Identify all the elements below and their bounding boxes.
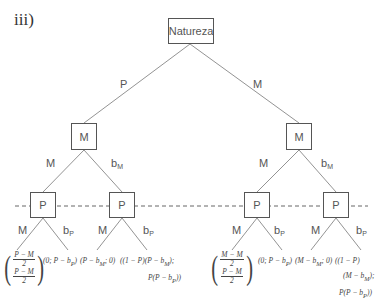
edge-label-p4-right: bP (356, 224, 367, 237)
edge-label-root-right: M (253, 78, 262, 90)
player-p-node-1: P (30, 192, 56, 218)
edge-label-p2-right: bP (143, 224, 154, 237)
payoff-1: ( P − M2 P − M2 ) (2, 251, 46, 285)
payoff-5: ( M − M2 P − M2 ) (209, 251, 255, 285)
player-m-node-right: M (286, 123, 312, 150)
player-p-node-3: P (244, 192, 270, 218)
edge-label-p3-left: M (232, 224, 241, 236)
edge-label-rm-right: bM (321, 157, 333, 170)
edge-label-p1-right: bP (63, 224, 74, 237)
edge-label-lm-left: M (46, 157, 55, 169)
edge-label-p4-left: M (311, 224, 320, 236)
edge-label-root-left: P (120, 78, 127, 90)
edge-label-p3-right: bP (274, 224, 285, 237)
edge-label-rm-left: M (259, 157, 268, 169)
edge-label-p1-left: M (18, 224, 27, 236)
edge-label-p2-left: M (98, 224, 107, 236)
payoff-7: (M − bM; 0) (295, 256, 332, 267)
nature-node: Natureza (168, 18, 214, 44)
payoff-4: ((1 − P)(P − bM); P(P − bP)) (120, 256, 181, 283)
edge-label-lm-right: bM (111, 157, 123, 170)
payoff-8: ((1 − P) (M − bM); P(P − bP)) (335, 256, 375, 298)
payoff-6: (0; P − bP) (258, 256, 292, 267)
payoff-2: (0; P − bP) (43, 256, 77, 267)
player-m-node-left: M (71, 123, 97, 150)
player-p-node-4: P (323, 192, 349, 218)
payoff-3: (P − bM; 0) (80, 256, 115, 267)
player-p-node-2: P (109, 192, 135, 218)
